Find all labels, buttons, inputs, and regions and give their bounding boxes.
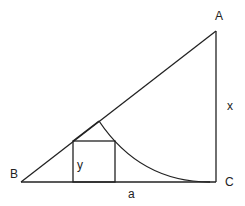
label-y: y xyxy=(77,158,83,172)
apex-to-square-left xyxy=(73,121,99,141)
label-b-vertex: B xyxy=(10,167,18,181)
label-a-vertex: A xyxy=(215,9,223,23)
geometry-diagram: A x C B y a xyxy=(0,0,245,206)
hypotenuse-ab xyxy=(21,31,216,182)
curve-arc xyxy=(99,121,210,182)
label-c-vertex: C xyxy=(225,175,234,189)
label-x: x xyxy=(227,99,233,113)
label-a-base: a xyxy=(128,187,135,201)
